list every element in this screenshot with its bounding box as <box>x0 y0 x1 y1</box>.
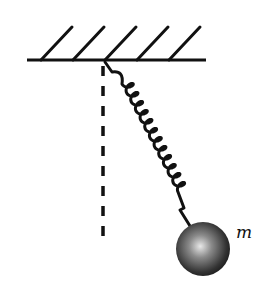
ceiling <box>27 27 206 60</box>
mass-ball <box>176 222 230 276</box>
spring-pendulum-diagram <box>0 0 267 290</box>
mass-label: m <box>236 222 252 242</box>
spring <box>105 62 190 226</box>
ceiling-hatching <box>41 27 200 60</box>
